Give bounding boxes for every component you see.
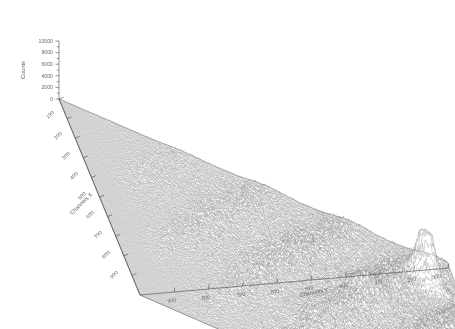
z-tick-label: 4000: [41, 73, 53, 79]
z-tick-label: 0: [50, 96, 53, 102]
x-axis: 100 200 300 400 500 600 700 800 900 Chan…: [45, 97, 140, 295]
y-tick-label: 800: [201, 293, 211, 301]
y-tick-label: 600: [270, 287, 280, 295]
x-tick-label: 700: [93, 229, 103, 239]
y-tick-label: 400: [339, 281, 349, 289]
y-axis: 900 800 700 600 500 400 300 200 100 Chan…: [140, 264, 449, 304]
x-tick-label: 200: [53, 130, 63, 140]
z-axis-title: Counts: [20, 61, 26, 79]
y-tick-label: 700: [236, 290, 246, 298]
z-tick-label: 10000: [39, 38, 54, 44]
surface-plot-figure: 10000 8000 6000 4000 2000 0 Counts 100 2…: [0, 0, 455, 329]
y-tick-label: 300: [373, 278, 383, 286]
z-tick-label: 6000: [41, 61, 53, 67]
x-tick-label: 600: [85, 209, 95, 219]
x-tick-label: 400: [69, 170, 79, 180]
y-tick-label: 900: [167, 296, 177, 304]
x-tick-label: 300: [61, 150, 71, 160]
y-tick-label: 200: [407, 275, 417, 283]
axes-overlay: 10000 8000 6000 4000 2000 0 Counts 100 2…: [0, 0, 455, 329]
z-tick-label: 8000: [41, 49, 53, 55]
x-tick-label: 800: [101, 249, 111, 259]
z-axis: 10000 8000 6000 4000 2000 0 Counts: [20, 38, 59, 102]
z-tick-label: 2000: [41, 84, 53, 90]
x-tick-label: 100: [45, 109, 55, 119]
x-tick-label: 900: [109, 269, 119, 279]
y-tick-label: 100: [432, 272, 442, 280]
